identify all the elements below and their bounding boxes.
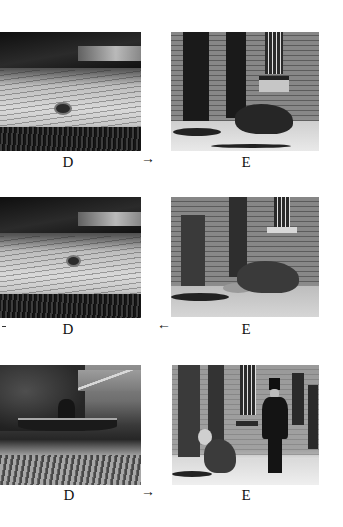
boathouse-roof <box>78 370 141 392</box>
man-legs <box>268 439 282 473</box>
swimming-dog <box>56 104 70 113</box>
label-d: D <box>58 154 78 170</box>
margin-mark <box>2 326 6 327</box>
grass <box>0 127 141 151</box>
window-sill <box>259 76 289 92</box>
label-d: D <box>58 321 78 337</box>
shadow <box>211 144 291 148</box>
label-e: E <box>236 487 256 503</box>
doorway <box>292 373 304 425</box>
grass <box>0 294 141 318</box>
reeds <box>0 455 141 485</box>
doorway <box>181 215 205 291</box>
photo-row1-river <box>0 32 141 151</box>
running-dog <box>235 104 293 134</box>
photo-row3-boat <box>0 365 141 485</box>
river-bank-light <box>78 46 141 60</box>
river-bank-light <box>78 212 141 227</box>
boat <box>18 418 117 431</box>
shadow <box>173 128 221 136</box>
doorway <box>308 385 318 449</box>
photo-row2-street <box>171 197 319 317</box>
doorway <box>178 365 200 457</box>
arrow-left-icon: ← <box>157 318 171 332</box>
shadow <box>172 471 212 477</box>
window <box>265 32 283 74</box>
doorway <box>226 32 246 118</box>
shadow <box>171 293 229 301</box>
photo-row1-street <box>171 32 319 151</box>
arrow-right-icon: → <box>141 485 155 499</box>
label-e: E <box>236 154 256 170</box>
dog-on-boat <box>58 399 75 421</box>
water-ripples <box>0 70 141 135</box>
photo-row2-river <box>0 197 141 318</box>
window-sill <box>236 421 258 426</box>
label-d: D <box>59 487 79 503</box>
arrow-right-icon: → <box>141 152 155 166</box>
window-sill <box>267 227 297 233</box>
label-e: E <box>236 321 256 337</box>
photo-row3-street <box>172 365 319 485</box>
man-in-top-hat <box>262 397 288 439</box>
window <box>240 365 256 415</box>
walking-dog <box>237 261 299 293</box>
collie-dog <box>204 439 236 473</box>
doorway <box>183 32 209 124</box>
window <box>274 197 290 227</box>
water-ripples <box>0 236 141 303</box>
swimming-dog <box>68 257 79 265</box>
